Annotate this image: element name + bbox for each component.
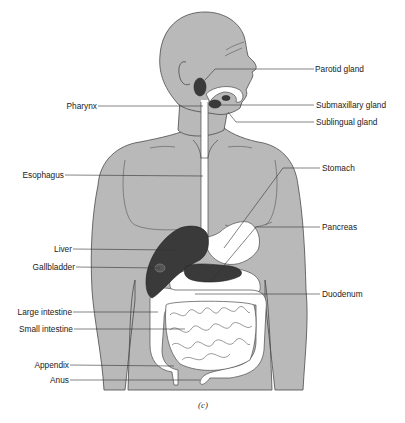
- label-submaxillary-gland: Submaxillary gland: [316, 100, 386, 110]
- label-pharynx: Pharynx: [20, 101, 97, 111]
- label-duodenum: Duodenum: [322, 289, 363, 299]
- figure-caption: (c): [195, 400, 211, 410]
- label-parotid-gland: Parotid gland: [315, 64, 364, 74]
- label-anus: Anus: [0, 375, 69, 385]
- label-sublingual-gland: Sublingual gland: [316, 117, 377, 127]
- label-large-intestine: Large intestine: [0, 307, 72, 317]
- label-pancreas: Pancreas: [322, 222, 357, 232]
- label-appendix: Appendix: [0, 360, 69, 370]
- label-esophagus: Esophagus: [0, 170, 64, 180]
- submaxillary-gland-shape: [209, 100, 221, 108]
- sublingual-gland-shape: [222, 96, 230, 101]
- label-stomach: Stomach: [322, 163, 355, 173]
- label-liver: Liver: [20, 244, 72, 254]
- label-gallbladder: Gallbladder: [0, 262, 75, 272]
- label-small-intestine: Small intestine: [0, 324, 73, 334]
- parotid-gland-shape: [194, 78, 206, 96]
- digestive-system-diagram: Pharynx Esophagus Liver Gallbladder Larg…: [0, 0, 405, 423]
